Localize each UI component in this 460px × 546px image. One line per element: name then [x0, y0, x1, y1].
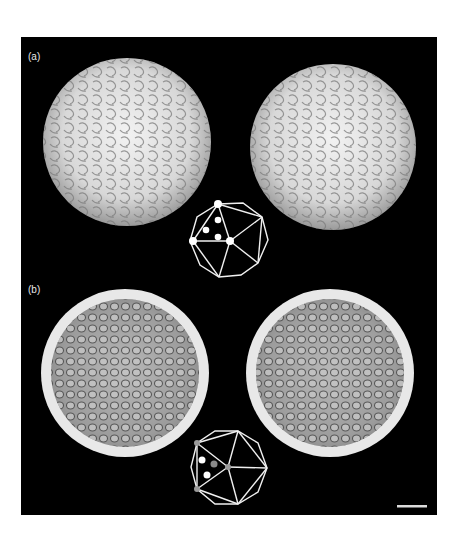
capsid-cutaway-left: [41, 289, 209, 457]
capsid-surface-left: [43, 58, 211, 226]
figure-panel: (a) (b): [21, 37, 437, 515]
capsid-cutaway-right: [246, 289, 414, 457]
figure-artwork: [21, 37, 437, 515]
vertex-markers-b: [194, 440, 231, 492]
scale-bar: [397, 505, 427, 508]
capsid-surface-right: [250, 64, 416, 230]
